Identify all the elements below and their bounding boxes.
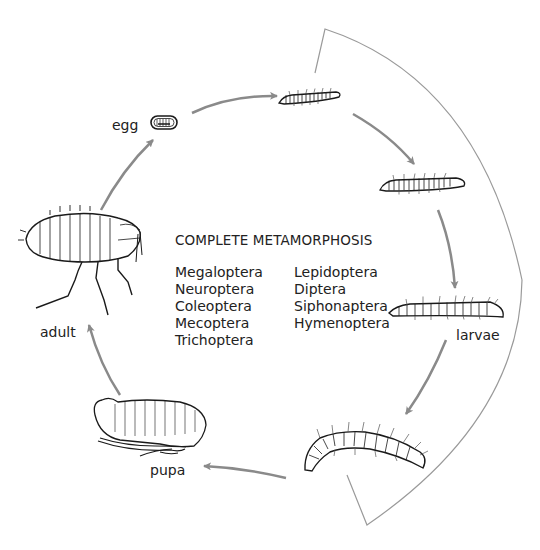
pupa-illustration xyxy=(94,398,206,456)
arrow-larva4-to-pupa xyxy=(204,466,286,478)
stage-label-pupa: pupa xyxy=(150,462,185,478)
order-name: Coleoptera xyxy=(175,298,263,315)
arrow-larva3-to-larva4 xyxy=(406,340,446,414)
larva-stage-4-illustration xyxy=(305,422,428,471)
order-name: Neuroptera xyxy=(175,281,263,298)
order-name: Lepidoptera xyxy=(294,264,390,281)
arrow-larva2-to-larva3 xyxy=(438,210,455,288)
arrow-egg-to-larva1 xyxy=(192,96,277,113)
order-name: Diptera xyxy=(294,281,390,298)
order-name: Hymenoptera xyxy=(294,315,390,332)
larva-stage-1-illustration xyxy=(279,88,340,106)
egg-illustration xyxy=(151,116,177,129)
arrow-adult-to-egg xyxy=(101,140,153,210)
stage-label-adult: adult xyxy=(40,324,76,340)
arrow-larva1-to-larva2 xyxy=(353,114,414,164)
order-name: Trichoptera xyxy=(175,332,263,349)
larva-stage-2-illustration xyxy=(380,173,465,195)
larva-stage-3-illustration xyxy=(389,296,503,321)
order-name: Siphonaptera xyxy=(294,298,390,315)
stage-label-egg: egg xyxy=(112,117,138,133)
metamorphosis-diagram xyxy=(0,0,540,550)
order-name: Megaloptera xyxy=(175,264,263,281)
adult-flea-illustration xyxy=(18,205,142,315)
order-name: Mecoptera xyxy=(175,315,263,332)
stage-label-larvae: larvae xyxy=(456,327,500,343)
arrow-pupa-to-adult xyxy=(89,325,120,395)
orders-column-2: Lepidoptera Diptera Siphonaptera Hymenop… xyxy=(294,264,390,332)
orders-column-1: Megaloptera Neuroptera Coleoptera Mecopt… xyxy=(175,264,263,349)
diagram-title: COMPLETE METAMORPHOSIS xyxy=(175,232,372,248)
